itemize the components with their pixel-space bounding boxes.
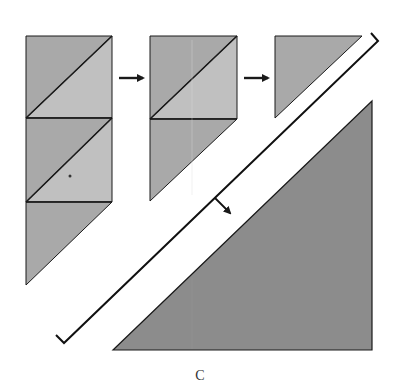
quilt-diagram (0, 0, 396, 389)
step2-unit (150, 36, 237, 201)
step3-triangle (275, 36, 362, 118)
marker-dot (69, 175, 72, 178)
figure-label: C (190, 368, 210, 384)
step1-unit (26, 36, 112, 285)
arrow-down-right-icon (215, 198, 230, 213)
